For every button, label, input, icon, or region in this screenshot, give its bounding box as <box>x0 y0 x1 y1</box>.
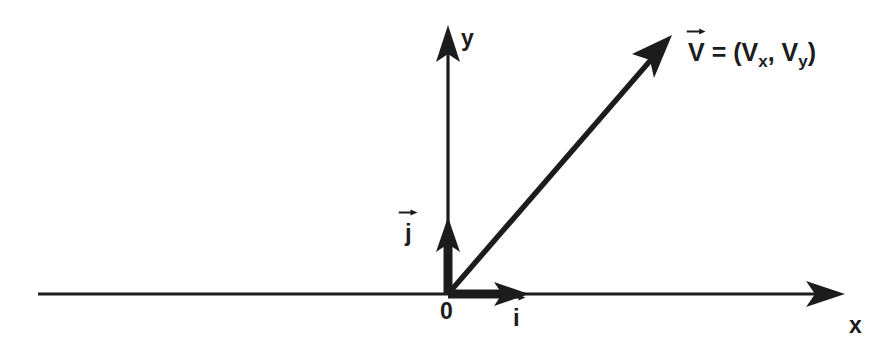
x-axis-label: x <box>849 314 862 337</box>
vector-v-name: V <box>688 38 705 66</box>
vector-v-equals: = ( <box>705 38 742 66</box>
unit-vector-j-label: j <box>405 219 412 245</box>
vector-diagram: y x 0 j i V = (Vx <box>0 0 887 347</box>
component-x-subscript: x <box>758 52 767 71</box>
vector-v-close-paren: ) <box>808 38 816 66</box>
component-y-subscript: y <box>798 52 807 71</box>
component-y-base: V <box>782 38 799 66</box>
vector-v-shaft <box>448 54 656 294</box>
vector-v-label: V = (Vx, Vy) <box>688 38 816 70</box>
unit-vector-i-glyph: i <box>513 304 520 331</box>
origin-label: 0 <box>440 300 453 323</box>
component-x-base: V <box>742 38 759 66</box>
vector-v-comma: , <box>768 38 782 66</box>
y-axis-label: y <box>461 27 474 50</box>
unit-vector-j-glyph: j <box>405 219 412 246</box>
unit-vector-i-label: i <box>513 304 520 330</box>
